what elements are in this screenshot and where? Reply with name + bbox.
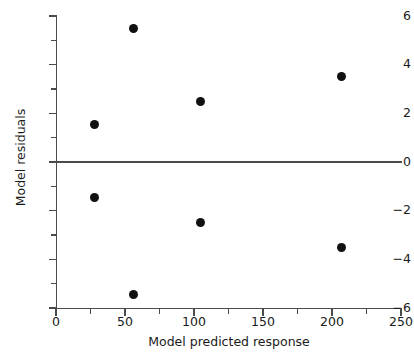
- x-tick-label: 150: [233, 316, 293, 329]
- x-axis-title: Model predicted response: [56, 334, 402, 349]
- data-point: [129, 24, 138, 33]
- x-tick-label: 100: [164, 316, 224, 329]
- data-point: [337, 72, 346, 81]
- x-tick-minor: [366, 308, 367, 314]
- x-tick-minor: [159, 308, 160, 314]
- residual-plot-figure: 6420−2−4−6 050100150200250 Model predict…: [0, 0, 414, 358]
- x-tick-minor: [228, 308, 229, 314]
- x-tick-minor: [90, 308, 91, 314]
- x-tick-label: 250: [371, 316, 414, 329]
- x-tick-label: 0: [26, 316, 86, 329]
- x-tick-label: 200: [302, 316, 362, 329]
- data-point: [337, 243, 346, 252]
- data-point: [129, 290, 138, 299]
- data-point: [90, 193, 99, 202]
- data-point: [196, 97, 205, 106]
- plot-area: [56, 16, 401, 308]
- y-axis-title: Model residuals: [13, 68, 28, 248]
- data-point: [90, 120, 99, 129]
- x-tick-label: 50: [95, 316, 155, 329]
- data-point: [196, 218, 205, 227]
- x-tick-minor: [297, 308, 298, 314]
